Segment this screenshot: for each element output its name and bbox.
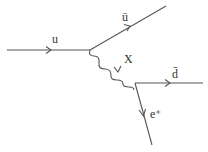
label-x: X (124, 52, 133, 66)
label-dbar: d̄ (172, 67, 178, 81)
feynman-diagram: u ū X d̄ e⁺ (0, 0, 208, 152)
arrow-icon (114, 66, 121, 72)
label-positron: e⁺ (150, 107, 161, 121)
incoming-u-line (7, 47, 90, 54)
label-u: u (52, 32, 58, 46)
label-ubar: ū (122, 10, 128, 24)
outgoing-ubar-line (90, 6, 166, 50)
outgoing-dbar-line (135, 80, 203, 87)
